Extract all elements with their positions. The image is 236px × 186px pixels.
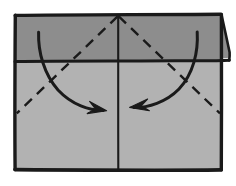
- band-bottom-edge: [15, 60, 229, 61]
- origami-diagram-svg: [0, 0, 236, 186]
- origami-diagram-stage: [0, 0, 236, 186]
